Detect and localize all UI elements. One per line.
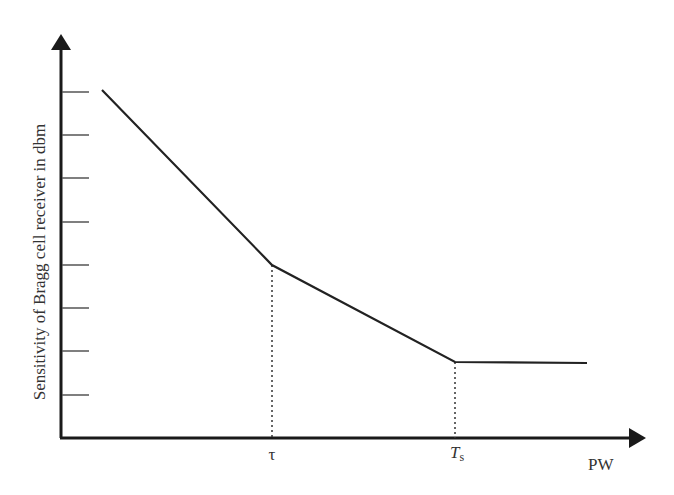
x-axis-label: PW bbox=[588, 455, 614, 475]
chart-canvas bbox=[0, 0, 674, 495]
sensitivity-curve bbox=[102, 90, 587, 363]
x-axis-arrow-icon bbox=[629, 428, 646, 448]
x-tick-ts: Ts bbox=[450, 443, 464, 465]
x-tick-tau: τ bbox=[269, 445, 276, 465]
y-axis-label: Sensitivity of Bragg cell receiver in db… bbox=[30, 124, 50, 401]
y-axis-arrow-icon bbox=[51, 34, 71, 50]
y-ticks bbox=[62, 92, 89, 395]
